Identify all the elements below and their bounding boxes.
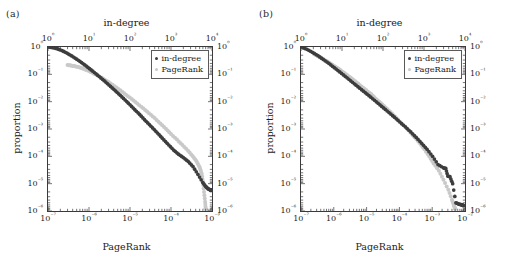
top-axis-title-b: in-degree [253,17,506,28]
bottom-axis-title-b: PageRank [253,241,506,252]
ytick-right-4: 10⁻⁴ [217,152,233,160]
legend-marker-in-degree-icon [155,57,158,60]
xtick-top-3: 10³ [165,35,178,43]
top-axis-title-a: in-degree [0,17,253,28]
ytick-left-3: 10⁻³ [280,125,296,133]
xtick-bottom-2: 10⁻⁵ [359,215,375,223]
ytick-left-2: 10⁻² [280,98,296,106]
legend-marker-pagerank-icon [155,68,158,71]
ytick-right-3: 10⁻³ [470,125,486,133]
ytick-left-1: 10⁻¹ [280,70,296,78]
ytick-left-6: 10⁻⁶ [27,207,43,215]
ytick-left-5: 10⁻⁵ [280,180,296,188]
xtick-top-2: 10² [377,35,390,43]
legend-item-in-degree: in-degree [155,53,203,64]
ytick-right-1: 10⁻¹ [217,70,233,78]
left-axis-title-a: proportion [11,78,22,178]
left-axis-title-b: proportion [264,78,275,178]
xtick-bottom-3: 10⁻⁴ [163,215,179,223]
legend-label-in-degree: in-degree [161,53,201,64]
legend-item-pagerank: PageRank [155,64,203,75]
figure-root: (a) in-degree PageRank proportion 10⁰10¹… [0,0,506,256]
bottom-axis-title-a: PageRank [0,241,253,252]
ytick-left-1: 10⁻¹ [27,70,43,78]
ytick-left-5: 10⁻⁵ [27,180,43,188]
xtick-bottom-5: 10⁻² [457,215,473,223]
ytick-right-5: 10⁻⁵ [217,180,233,188]
plot-area-a: in-degree PageRank [47,46,213,212]
xtick-top-1: 10¹ [83,35,96,43]
ytick-left-4: 10⁻⁴ [280,152,296,160]
ytick-right-5: 10⁻⁵ [470,180,486,188]
xtick-bottom-2: 10⁻⁵ [122,215,138,223]
series-pagerank [66,63,208,211]
legend-a: in-degree PageRank [151,50,209,79]
xtick-top-3: 10³ [418,35,431,43]
ytick-right-1: 10⁻¹ [470,70,486,78]
xtick-top-2: 10² [124,35,137,43]
ytick-right-4: 10⁻⁴ [470,152,486,160]
xtick-bottom-4: 10⁻³ [424,215,440,223]
ytick-left-3: 10⁻³ [27,125,43,133]
ytick-left-2: 10⁻² [27,98,43,106]
xtick-bottom-3: 10⁻⁴ [392,215,408,223]
xtick-bottom-4: 10⁻³ [204,215,220,223]
ytick-left-0: 10⁰ [284,43,297,51]
ytick-right-3: 10⁻³ [217,125,233,133]
legend-label-in-degree: in-degree [414,53,454,64]
legend-b: in-degree PageRank [404,50,462,79]
xtick-top-0: 10⁰ [295,35,308,43]
xtick-bottom-1: 10⁻⁶ [81,215,97,223]
xtick-top-0: 10⁰ [42,35,55,43]
ytick-right-0: 10⁰ [470,43,483,51]
legend-label-pagerank: PageRank [414,64,456,75]
xtick-top-1: 10¹ [336,35,349,43]
panel-a: (a) in-degree PageRank proportion 10⁰10¹… [0,0,253,256]
ytick-right-6: 10⁻⁶ [217,207,233,215]
legend-item-pagerank: PageRank [408,64,456,75]
xtick-bottom-0: 10⁻⁷ [293,215,309,223]
xtick-bottom-1: 10⁻⁶ [326,215,342,223]
legend-marker-pagerank-icon [408,68,411,71]
ytick-right-2: 10⁻² [470,98,486,106]
ytick-right-6: 10⁻⁶ [470,207,486,215]
ytick-left-6: 10⁻⁶ [280,207,296,215]
panel-b: (b) in-degree PageRank proportion 10⁰10¹… [253,0,506,256]
xtick-bottom-0: 10⁻⁷ [40,215,56,223]
ytick-right-0: 10⁰ [217,43,230,51]
legend-label-pagerank: PageRank [161,64,203,75]
ytick-left-4: 10⁻⁴ [27,152,43,160]
ytick-right-2: 10⁻² [217,98,233,106]
legend-item-in-degree: in-degree [408,53,456,64]
legend-marker-in-degree-icon [408,57,411,60]
plot-area-b: in-degree PageRank [300,46,466,212]
ytick-left-0: 10⁰ [31,43,44,51]
